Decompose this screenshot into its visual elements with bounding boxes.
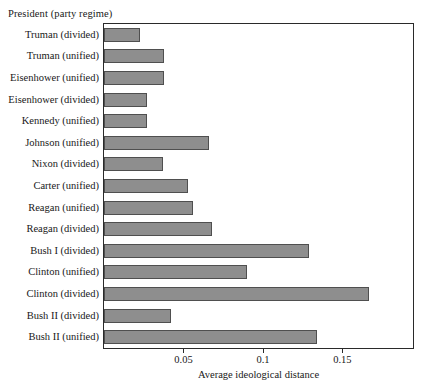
bar [104,309,171,323]
bar [104,157,163,171]
bar [104,265,247,279]
bar [104,179,188,193]
y-axis-tick-label: Bush II (unified) [0,331,99,342]
y-axis-tick-label: Truman (unified) [0,50,99,61]
y-axis-tick-label: Eisenhower (divided) [0,94,99,105]
bar [104,201,193,215]
bar [104,244,309,258]
y-axis-tick-label: Truman (divided) [0,29,99,40]
y-axis-caption: President (party regime) [8,8,112,19]
y-axis-tick-label: Bush I (divided) [0,245,99,256]
bar [104,28,140,42]
y-axis-tick-label: Eisenhower (unified) [0,72,99,83]
x-axis-title: Average ideological distance [103,369,414,380]
bar [104,287,369,301]
y-axis-tick-label: Carter (unified) [0,180,99,191]
bar [104,93,147,107]
bar [104,114,147,128]
x-axis-tick-mark [342,349,343,353]
y-axis-tick-label: Reagan (unified) [0,202,99,213]
y-axis-labels: Truman (divided)Truman (unified)Eisenhow… [0,24,99,348]
bar [104,222,212,236]
y-axis-tick-label: Clinton (divided) [0,288,99,299]
y-axis-tick-label: Clinton (unified) [0,266,99,277]
y-axis-tick-label: Bush II (divided) [0,310,99,321]
y-axis-tick-label: Johnson (unified) [0,137,99,148]
x-axis-tick-label: 0.15 [333,354,351,366]
bar [104,71,164,85]
bar [104,330,317,344]
y-axis-tick-label: Kennedy (unified) [0,115,99,126]
y-axis-tick-label: Reagan (divided) [0,223,99,234]
bar [104,49,164,63]
y-axis-tick-label: Nixon (divided) [0,158,99,169]
x-axis-tick-mark [183,349,184,353]
x-axis-tick-label: 0.1 [256,354,269,366]
bars-layer [104,24,413,348]
x-axis-tick-mark [263,349,264,353]
x-axis-tick-label: 0.05 [174,354,192,366]
bar [104,136,209,150]
